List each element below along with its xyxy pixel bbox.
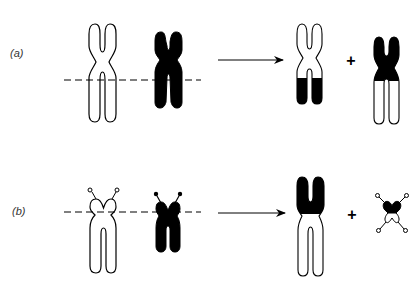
- translocation-diagram: +: [0, 0, 417, 290]
- result-fused-chromosome: [292, 172, 328, 280]
- plus-operator-b: +: [347, 206, 356, 223]
- plus-operator-a: +: [346, 52, 355, 69]
- chromosome-black-metacentric: [155, 32, 182, 108]
- chromosome-black-acrocentric: [154, 192, 182, 252]
- result-chromosome-white-black-tips: [290, 20, 330, 108]
- panel-a: +: [64, 20, 405, 131]
- result-chromosome-black-white-tips: [370, 30, 405, 131]
- chromosome-white-metacentric: [89, 24, 116, 122]
- chromosome-white-acrocentric: [88, 188, 119, 273]
- panel-b: +: [64, 172, 409, 280]
- result-small-fragment: [376, 194, 409, 233]
